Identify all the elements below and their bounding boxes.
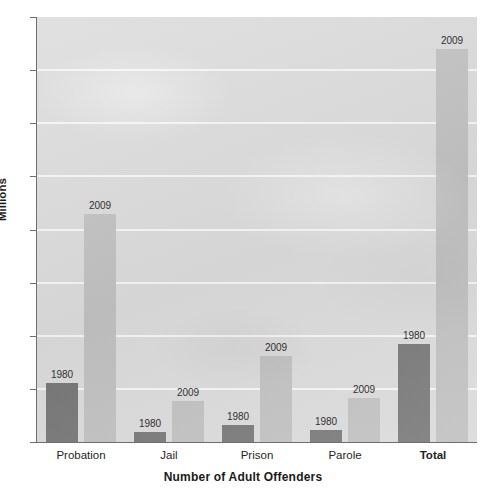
gridline — [37, 69, 477, 71]
x-axis-label-parole: Parole — [328, 449, 361, 461]
x-axis-label-probation: Probation — [56, 449, 105, 461]
x-axis-label-prison: Prison — [241, 449, 274, 461]
plot-area — [37, 17, 477, 442]
y-axis-tick — [30, 336, 36, 337]
bar-label-probation-2009: 2009 — [89, 200, 111, 211]
bar-chart: 012345678 ProbationJailPrisonParoleTotal… — [0, 0, 486, 497]
gridline — [37, 122, 477, 124]
bar-label-total-2009: 2009 — [441, 35, 463, 46]
bar-jail-2009 — [172, 401, 204, 442]
bar-jail-1980 — [134, 432, 166, 442]
x-axis-title: Number of Adult Offenders — [0, 470, 486, 484]
y-axis-title: Millions — [0, 178, 8, 221]
y-axis-title-wrap: Millions — [0, 221, 39, 233]
x-axis-label-jail: Jail — [160, 449, 177, 461]
bar-total-1980 — [398, 344, 430, 442]
bar-label-prison-2009: 2009 — [265, 342, 287, 353]
bar-prison-2009 — [260, 356, 292, 442]
bar-total-2009 — [436, 49, 468, 442]
bar-label-jail-1980: 1980 — [139, 418, 161, 429]
bar-probation-1980 — [46, 383, 78, 443]
y-axis-tick — [30, 176, 36, 177]
y-axis-tick — [30, 389, 36, 390]
gridline — [37, 175, 477, 177]
bar-prison-1980 — [222, 425, 254, 442]
bar-label-prison-1980: 1980 — [227, 411, 249, 422]
x-axis-line — [36, 442, 477, 443]
x-axis-label-total: Total — [420, 449, 447, 461]
y-axis-tick — [30, 283, 36, 284]
bar-label-parole-1980: 1980 — [315, 416, 337, 427]
bar-parole-2009 — [348, 398, 380, 442]
bar-probation-2009 — [84, 214, 116, 442]
bar-parole-1980 — [310, 430, 342, 442]
bar-label-parole-2009: 2009 — [353, 384, 375, 395]
bar-label-probation-1980: 1980 — [51, 369, 73, 380]
y-axis-tick — [30, 123, 36, 124]
y-axis-tick — [30, 70, 36, 71]
bar-label-jail-2009: 2009 — [177, 387, 199, 398]
y-axis-tick — [30, 442, 36, 443]
y-axis-tick — [30, 17, 36, 18]
bar-label-total-1980: 1980 — [403, 330, 425, 341]
